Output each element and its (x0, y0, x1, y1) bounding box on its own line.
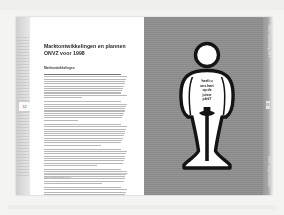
book-spread: 12 Marktontwikkelingen en plannen ONVZ v… (16, 17, 272, 195)
body-text-line (44, 151, 127, 152)
body-text-line (44, 142, 121, 143)
body-text-line (44, 115, 123, 116)
body-text-line (44, 104, 127, 105)
page-number-right: 13 (266, 104, 269, 107)
body-text-line (44, 156, 125, 157)
side-text-top: ONVZ Jaarverslag 1997 (267, 25, 270, 57)
body-text-line (44, 181, 124, 182)
body-text-line (44, 95, 127, 96)
page-footer: ONVZ Jaarverslag 1997 (44, 173, 128, 179)
body-text-line (44, 158, 125, 159)
body-text-line (44, 145, 101, 146)
page-number-tab-right: 13 (266, 101, 270, 109)
body-text-line (44, 120, 78, 121)
body-text-line (44, 113, 124, 114)
body-text-line (44, 187, 121, 188)
body-paragraph (44, 74, 128, 98)
body-text-line (44, 97, 82, 98)
body-text-line (44, 88, 123, 89)
body-text-line (44, 92, 121, 93)
body-text-line (44, 138, 123, 139)
section-subtitle: Marktontwikkelingen (44, 66, 128, 70)
bowling-pin-person-icon (172, 39, 242, 179)
body-text-line (44, 74, 121, 75)
body-text-line (44, 106, 126, 107)
footer-divider (44, 173, 128, 174)
body-text-line (44, 192, 126, 193)
body-text-line (44, 163, 123, 164)
side-text-bottom: ONVZ Zorgverzekeraar (267, 156, 270, 187)
body-text-line (44, 129, 126, 130)
body-text-line (44, 83, 125, 84)
body-paragraph (44, 187, 128, 195)
poster-line-5: plek? (193, 97, 221, 102)
body-text-line (44, 76, 127, 77)
scan-top-edge (0, 0, 284, 10)
body-text-line (44, 90, 122, 91)
body-text-line (44, 101, 121, 102)
body-text-line (44, 160, 124, 161)
page-number-left: 12 (22, 105, 26, 109)
body-text-line (44, 149, 121, 150)
body-text-line (44, 189, 127, 190)
body-text-line (44, 165, 97, 166)
poster-figure: heeft u ons hart op de juiste plek? (172, 39, 242, 179)
scan-canvas: 12 Marktontwikkelingen en plannen ONVZ v… (0, 0, 284, 215)
footer-caption: ONVZ Jaarverslag 1997 (44, 176, 128, 179)
body-text-line (44, 135, 124, 136)
scan-bottom-strip (8, 205, 276, 209)
body-text-line (44, 117, 122, 118)
body-text-line (44, 153, 126, 154)
body-text-line (44, 169, 121, 170)
body-text-line (44, 110, 125, 111)
body-text-line (44, 194, 125, 195)
left-page: Marktontwikkelingen en plannen ONVZ voor… (30, 17, 144, 195)
body-text-line (44, 124, 121, 125)
body-paragraph (44, 124, 128, 146)
body-text-line (44, 133, 125, 134)
body-text-line (44, 140, 122, 141)
body-text-line (44, 81, 125, 82)
body-text-line (44, 131, 125, 132)
body-paragraph (44, 101, 128, 120)
poster-text: heeft u ons hart op de juiste plek? (193, 79, 221, 102)
page-title: Marktontwikkelingen en plannen ONVZ voor… (44, 43, 128, 57)
body-text-line (44, 183, 102, 184)
right-page: heeft u ons hart op de juiste plek? ONVZ… (144, 17, 272, 195)
body-text-line (44, 86, 124, 87)
body-text-line (44, 108, 125, 109)
body-paragraph (44, 149, 128, 166)
body-text-line (44, 79, 126, 80)
body-text-line (44, 126, 127, 127)
